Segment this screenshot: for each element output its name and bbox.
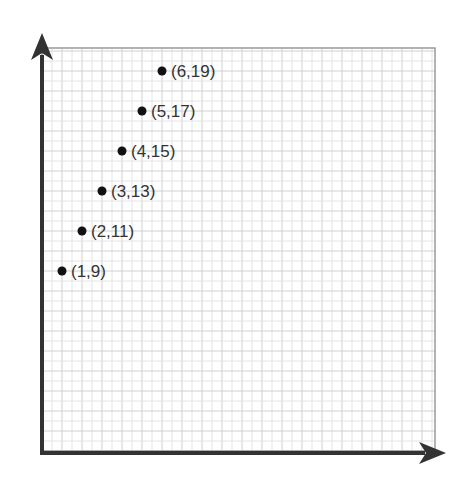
point-label: (6,19) [171,62,215,81]
data-point [158,67,167,76]
data-point [58,267,67,276]
y-axis [31,33,53,455]
scatter-chart: (1,9)(2,11)(3,13)(4,15)(5,17)(6,19) [0,0,458,477]
data-point [78,227,87,236]
data-point [98,187,107,196]
point-label: (5,17) [151,102,195,121]
grid [42,48,435,451]
data-point [138,107,147,116]
x-axis [40,442,446,464]
data-point [118,147,127,156]
point-label: (1,9) [71,262,106,281]
point-label: (4,15) [131,142,175,161]
point-label: (3,13) [111,182,155,201]
point-label: (2,11) [91,222,134,241]
